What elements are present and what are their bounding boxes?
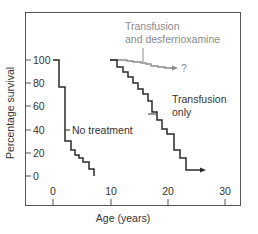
- x-tick-20: 20: [162, 185, 174, 197]
- x-tick-0: 0: [50, 185, 56, 197]
- question-mark-label: ?: [181, 62, 187, 74]
- arrow-head-icon: [200, 168, 206, 173]
- transfusion-only-label-line2: only: [172, 106, 192, 118]
- y-tick-0: 0: [33, 170, 39, 182]
- desferal-label-line2: and desferrioxamine: [125, 33, 220, 45]
- desferal-label-line1: Transfusion: [125, 20, 180, 32]
- series-no-treatment: [53, 60, 94, 176]
- x-axis: [53, 199, 225, 205]
- arrow-head-icon: [172, 66, 178, 71]
- y-axis: [26, 60, 31, 176]
- y-tick-20: 20: [33, 147, 45, 159]
- x-tick-30: 30: [219, 185, 231, 197]
- y-tick-80: 80: [33, 77, 45, 89]
- transfusion-only-label-line1: Transfusion: [172, 93, 227, 105]
- x-tick-10: 10: [105, 185, 117, 197]
- survival-chart: 100 80 60 40 20 0 0 10 20 30 Age (years)…: [0, 0, 258, 234]
- no-treatment-label: No treatment: [72, 124, 133, 136]
- y-tick-40: 40: [33, 124, 45, 136]
- y-tick-60: 60: [33, 100, 45, 112]
- y-axis-label: Percentage survival: [4, 67, 16, 159]
- y-tick-100: 100: [33, 54, 51, 66]
- x-axis-label: Age (years): [96, 212, 150, 224]
